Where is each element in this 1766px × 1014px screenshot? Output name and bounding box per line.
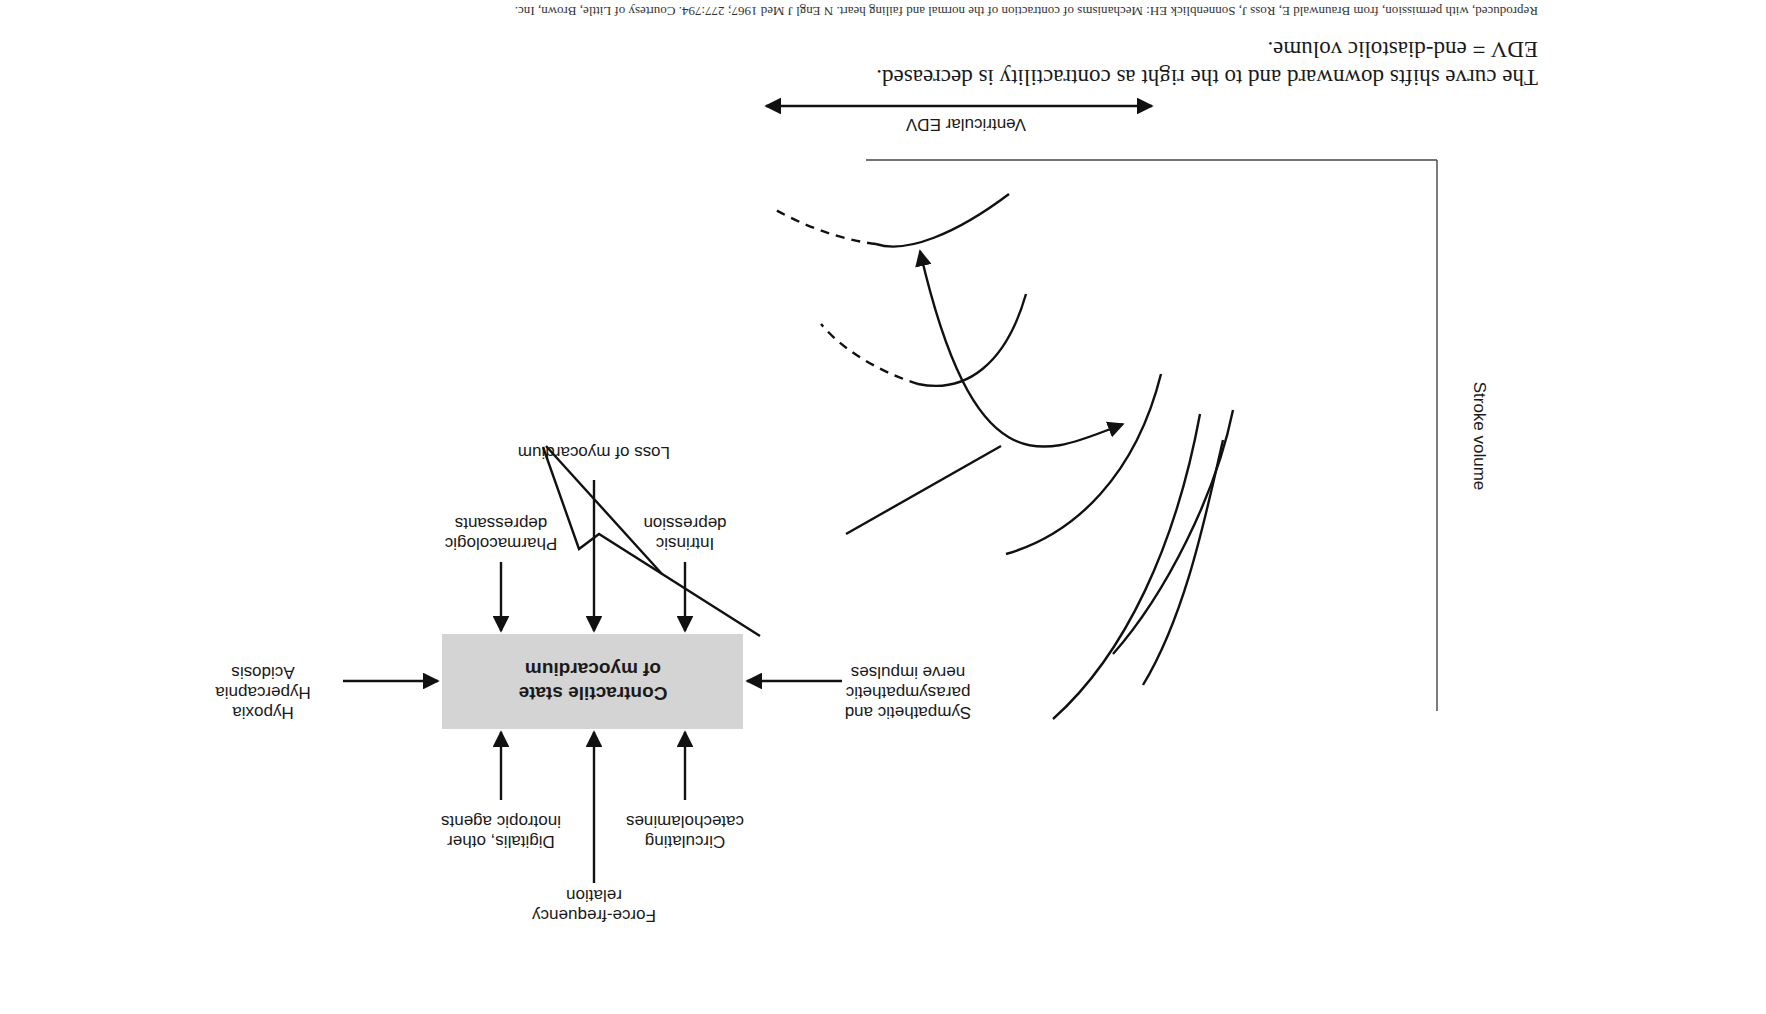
- label-parasympathetic: parasympathetic: [845, 683, 970, 702]
- box-title-line1: Contractile state: [519, 683, 668, 704]
- caption-reference: Reproduced, with permission, from Braunw…: [515, 4, 1538, 19]
- curve-lowest-dashed: [774, 209, 876, 244]
- label-hypoxia: Hypoxia: [232, 703, 294, 722]
- label-depressants: depressants: [455, 514, 548, 533]
- label-depression: depression: [643, 514, 726, 533]
- curve-third-dashed: [821, 324, 918, 384]
- label-pharmacologic: Pharmacologic: [444, 534, 557, 553]
- label-force-frequency: Force-frequency: [532, 906, 656, 925]
- contractile-state-box: Contractile state of myocardium: [442, 634, 743, 729]
- decrease-inputs: Intrinsic depression Loss of myocardium …: [444, 443, 726, 631]
- box-fill: [442, 634, 743, 729]
- label-sympathetic: Sympathetic and: [845, 703, 972, 722]
- label-inotropic-agents: inotropic agents: [441, 812, 561, 831]
- box-title-line2: of myocardium: [525, 659, 661, 680]
- arrow-spacer: [846, 446, 1001, 534]
- x-axis-label: Ventricular EDV: [905, 115, 1026, 134]
- label-nerve-impulses: nerve impulses: [851, 663, 965, 682]
- contractility-diagram: Contractile state of myocardium Circulat…: [0, 0, 1766, 1014]
- label-catecholamines: catecholamines: [626, 812, 744, 831]
- curve-spacer: [1143, 440, 1223, 685]
- caption-line2: EDV = end-diastolic volume.: [1267, 37, 1538, 62]
- label-digitalis: Digitalis, other: [447, 832, 555, 851]
- increase-inputs: Circulating catecholamines Force-frequen…: [441, 732, 744, 925]
- lightning-connector: [543, 447, 760, 636]
- label-intrinsic: Intrinsic: [655, 534, 714, 553]
- label-hypercapnia: Hypercapnia: [215, 683, 311, 702]
- label-acidosis: Acidosis: [231, 663, 294, 682]
- figure-stage: Contractile state of myocardium Circulat…: [0, 0, 1766, 1014]
- stroke-volume-graph: Stroke volume Ventricular EDV: [766, 106, 1489, 719]
- figure-caption: The curve shifts downward and to the rig…: [515, 4, 1538, 90]
- label-relation: relation: [566, 886, 622, 905]
- curve-second: [1006, 374, 1161, 554]
- label-circulating: Circulating: [645, 832, 725, 851]
- curve-lowest-solid: [876, 194, 1009, 247]
- label-loss-of-myocardium: Loss of myocardium: [518, 443, 670, 462]
- spacer-line: [546, 446, 662, 574]
- contractility-shift-arrow: [920, 251, 1123, 447]
- y-axis-label: Stroke volume: [1470, 382, 1489, 491]
- caption-line1: The curve shifts downward and to the rig…: [876, 65, 1538, 90]
